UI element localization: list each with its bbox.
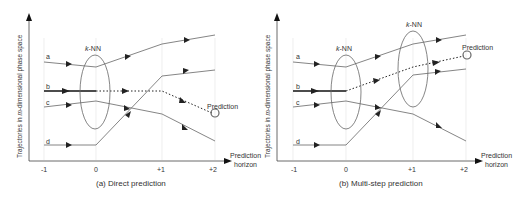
trajectory-label-c: c xyxy=(296,99,300,106)
panel-multi-step-prediction: k-NN k-NN Prediction a b c d -1 0 +1 +2 … xyxy=(264,13,512,188)
x-axis-label-line1: Prediction xyxy=(230,152,261,159)
trajectory-label-c: c xyxy=(46,99,50,106)
trajectory-label-d: d xyxy=(296,138,300,145)
y-axis-label: Trajectories in m-dimensional phase spac… xyxy=(16,34,24,158)
direct-prediction-path xyxy=(96,91,212,113)
y-axis-arrow-icon xyxy=(26,13,32,21)
caption-b: (b) Multi-step prediction xyxy=(339,179,423,188)
tick-0: 0 xyxy=(94,166,98,173)
direction-arrow-icons xyxy=(62,37,190,148)
tick-plus2: +2 xyxy=(460,166,468,173)
x-axis-label-line1: Prediction xyxy=(481,152,512,159)
y-axis-label: Trajectories in m-dimensional phase spac… xyxy=(264,34,272,158)
y-axis-arrow-icon xyxy=(274,13,280,21)
x-axis-label-line2: horizon xyxy=(234,161,257,168)
caption-a: (a) Direct prediction xyxy=(96,179,166,188)
knn-ellipse xyxy=(80,55,110,129)
tick-plus1: +1 xyxy=(408,166,416,173)
prediction-marker xyxy=(463,51,471,59)
trajectory-label-b: b xyxy=(46,83,50,90)
knn-label-step0: k-NN xyxy=(336,45,352,52)
trajectory-label-a: a xyxy=(46,53,50,60)
prediction-label: Prediction xyxy=(462,44,493,51)
trajectory-label-d: d xyxy=(46,138,50,145)
panel-direct-prediction: k-NN Prediction a b c d -1 0 +1 +2 Predi… xyxy=(16,13,261,188)
trajectory-label-b: b xyxy=(296,83,300,90)
x-axis-label-line2: horizon xyxy=(485,161,508,168)
tick-plus2: +2 xyxy=(209,166,217,173)
knn-label-step1: k-NN xyxy=(406,21,422,28)
tick-minus1: -1 xyxy=(291,166,297,173)
trajectory-c xyxy=(44,101,215,141)
prediction-label: Prediction xyxy=(207,103,238,110)
tick-minus1: -1 xyxy=(41,166,47,173)
knn-label: k-NN xyxy=(85,45,101,52)
tick-0: 0 xyxy=(344,166,348,173)
trajectory-label-a: a xyxy=(296,53,300,60)
tick-plus1: +1 xyxy=(157,166,165,173)
